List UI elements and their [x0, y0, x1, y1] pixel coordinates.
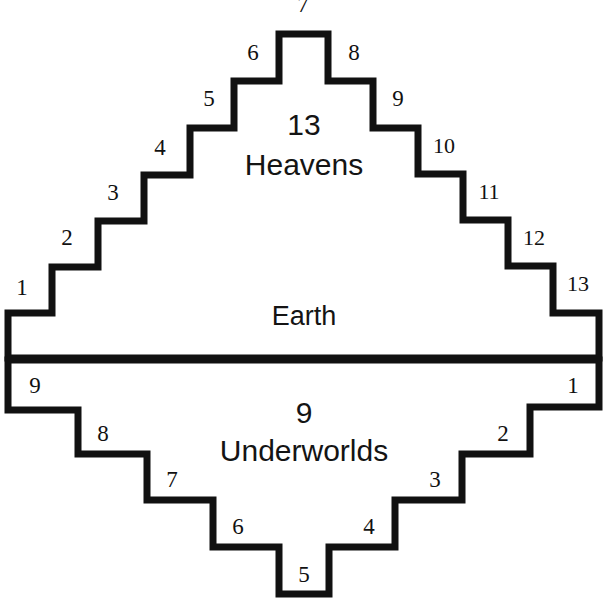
heaven-step-number-3: 3: [107, 180, 119, 205]
underworld-step-number-1: 1: [567, 373, 579, 398]
underworld-step-number-4: 4: [363, 514, 375, 539]
heaven-step-number-10: 10: [433, 133, 455, 158]
underworld-step-number-7: 7: [166, 467, 178, 492]
underworld-step-number-9: 9: [29, 373, 41, 398]
heaven-step-number-5: 5: [203, 86, 215, 111]
heaven-step-number-11: 11: [478, 179, 499, 204]
cosmos-diagram-svg: 13 Heavens Earth 9 Underworlds 123456789…: [0, 0, 607, 605]
heavens-name-label: Heavens: [245, 148, 363, 181]
heaven-step-number-2: 2: [61, 225, 73, 250]
underworld-step-number-5: 5: [298, 562, 310, 587]
heaven-step-number-4: 4: [154, 135, 166, 160]
heaven-step-number-12: 12: [523, 225, 545, 250]
heaven-step-number-1: 1: [16, 275, 28, 300]
underworld-step-number-8: 8: [97, 421, 109, 446]
underworld-step-number-3: 3: [429, 467, 441, 492]
heaven-step-number-8: 8: [348, 40, 360, 65]
heavens-count-label: 13: [287, 108, 320, 141]
underworld-step-number-6: 6: [232, 514, 244, 539]
underworlds-name-label: Underworlds: [220, 434, 388, 467]
underworlds-count-label: 9: [296, 396, 313, 429]
underworld-step-number-2: 2: [497, 421, 509, 446]
heaven-step-number-9: 9: [392, 86, 404, 111]
heaven-step-number-6: 6: [247, 40, 259, 65]
cosmos-diagram: 13 Heavens Earth 9 Underworlds 123456789…: [0, 0, 607, 605]
earth-name-label: Earth: [272, 301, 337, 331]
heaven-step-number-7: 7: [297, 0, 309, 17]
heaven-step-number-13: 13: [567, 271, 589, 296]
